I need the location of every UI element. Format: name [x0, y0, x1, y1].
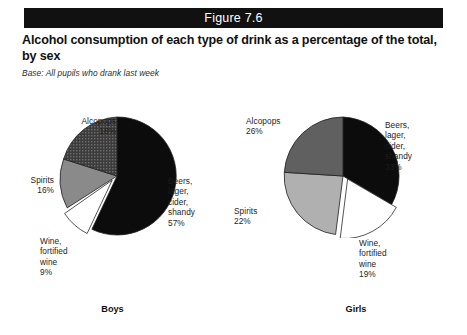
pie-panel-boys: Alcopops 18% Spirits 16% Wine, fortified…	[0, 108, 233, 293]
slice-label-alcopops-boys: Alcopops 18%	[54, 116, 116, 137]
slice-label-beers-girls: Beers, lager, cider, shandy 33%	[385, 120, 447, 172]
page-title: Alcohol consumption of each type of drin…	[22, 33, 442, 64]
slice-label-wine-girls: Wine, fortified wine 19%	[359, 238, 415, 280]
slice-label-spirits-girls: Spirits 22%	[234, 206, 282, 227]
figure-banner: Figure 7.6	[24, 8, 443, 28]
pie-panel-girls: Alcopops 26% Spirits 22% Wine, fortified…	[233, 108, 467, 293]
pie-slice-spirits-girls	[284, 172, 343, 234]
panel-caption-girls: Girls	[239, 304, 467, 314]
slice-label-spirits-boys: Spirits 16%	[8, 175, 54, 196]
slice-label-wine-boys: Wine, fortified wine 9%	[40, 236, 94, 278]
slice-label-beers-boys: Beers, lager, cider, shandy 57%	[168, 176, 230, 228]
slice-label-alcopops-girls: Alcopops 26%	[246, 116, 306, 137]
pie-stage-girls: Alcopops 26% Spirits 22% Wine, fortified…	[233, 108, 467, 293]
panel-caption-boys: Boys	[0, 304, 229, 314]
base-note: Base: All pupils who drank last week	[22, 68, 442, 78]
pie-stage-boys: Alcopops 18% Spirits 16% Wine, fortified…	[0, 108, 233, 293]
